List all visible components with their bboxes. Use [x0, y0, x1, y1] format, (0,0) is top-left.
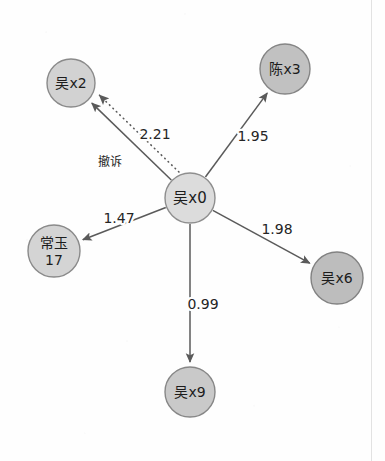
graph-node[interactable]: 吴x6 — [311, 252, 363, 304]
edge-weight-label: 1.98 — [261, 221, 292, 237]
node-label: 吴x6 — [321, 270, 352, 286]
node-label: 吴x9 — [174, 384, 205, 400]
node-label: 17 — [45, 252, 63, 268]
node-label: 吴x2 — [55, 75, 86, 91]
edge-weight-label: 1.47 — [103, 210, 134, 226]
node-label: 吴x0 — [173, 189, 206, 207]
node-label: 陈x3 — [269, 61, 300, 77]
graph-node[interactable]: 吴x9 — [165, 367, 215, 417]
node-label: 常玉 — [40, 235, 68, 251]
graph-canvas: 吴x0吴x2陈x3常玉17吴x6吴x9 2.212.21撤诉撤诉1.951.95… — [0, 0, 385, 461]
edge-weight-label: 1.95 — [237, 128, 268, 144]
network-graph: 吴x0吴x2陈x3常玉17吴x6吴x9 2.212.21撤诉撤诉1.951.95… — [0, 0, 385, 461]
graph-node[interactable]: 吴x0 — [165, 173, 215, 223]
edge-weight-label: 0.99 — [187, 296, 218, 312]
edge-weight-label: 撤诉 — [98, 154, 122, 169]
nodes-layer: 吴x0吴x2陈x3常玉17吴x6吴x9 — [28, 44, 363, 417]
edge-weight-label: 2.21 — [139, 126, 170, 142]
graph-node[interactable]: 常玉17 — [28, 225, 80, 277]
graph-node[interactable]: 吴x2 — [47, 59, 95, 107]
graph-node[interactable]: 陈x3 — [260, 44, 310, 94]
